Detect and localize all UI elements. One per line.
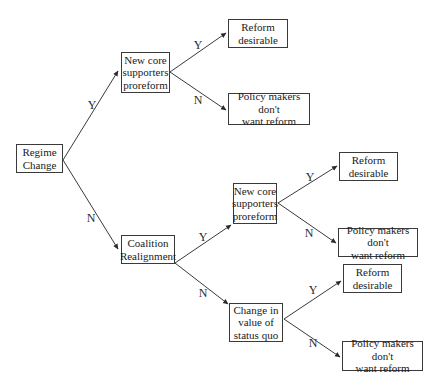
node-regime-change: Regime Change <box>16 144 63 173</box>
edge-label-no: N <box>194 94 203 106</box>
arrow-regime_change-to-core_supporters_1 <box>63 71 118 160</box>
arrow-regime_change-to-coalition_realignment <box>63 160 118 249</box>
edge-label-yes: Y <box>194 39 203 51</box>
edge-label-yes: Y <box>199 231 208 243</box>
edge-label-yes: Y <box>309 284 318 296</box>
decision-tree-diagram: YNYNYNYNYN Regime Change New core suppor… <box>0 0 439 388</box>
node-reform-desirable-lower: Reform desirable <box>343 264 402 293</box>
edge-layer <box>0 0 439 388</box>
node-new-core-supporters-proreform-lower: New core supporters proreform <box>233 183 277 224</box>
node-reform-desirable-middle: Reform desirable <box>339 152 398 181</box>
node-reform-desirable-upper: Reform desirable <box>228 19 288 48</box>
node-change-in-value-of-status-quo: Change in value of status quo <box>229 303 283 342</box>
edge-label-no: N <box>305 227 314 239</box>
node-coalition-realignment: Coalition Realignment <box>121 235 175 264</box>
edge-label-yes: Y <box>306 171 315 183</box>
edge-label-yes: Y <box>88 99 97 111</box>
edge-label-no: N <box>309 337 318 349</box>
node-policy-makers-dont-want-reform-lower: Policy makers don't want reform <box>342 341 423 371</box>
node-policy-makers-dont-want-reform-middle: Policy makers don't want reform <box>338 228 418 257</box>
edge-label-no: N <box>199 287 208 299</box>
edge-label-no: N <box>87 212 96 224</box>
node-new-core-supporters-proreform-upper: New core supporters proreform <box>121 52 170 93</box>
node-policy-makers-dont-want-reform-upper: Policy makers don't want reform <box>228 93 310 125</box>
